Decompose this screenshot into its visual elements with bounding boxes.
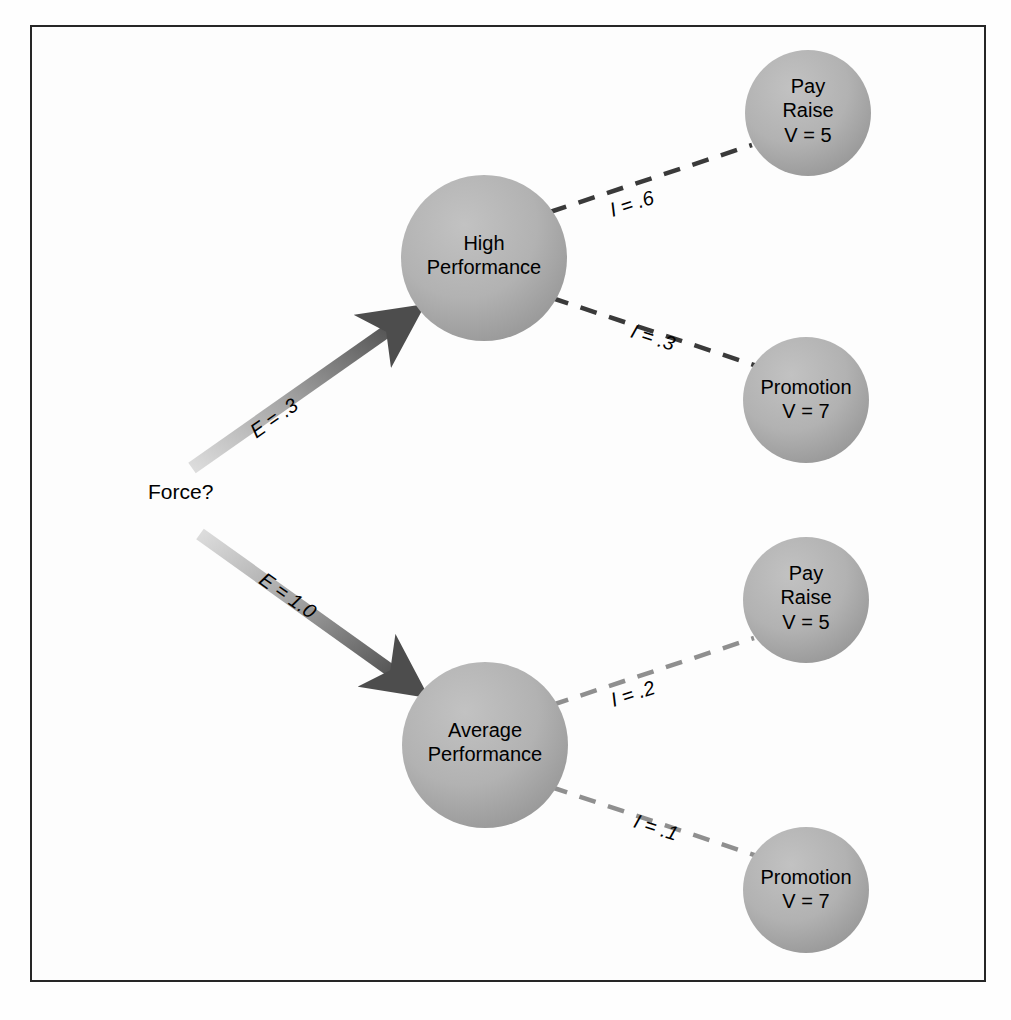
figure-container: High Performance Average Performance Pay… <box>0 0 1011 1020</box>
source-label-force: Force? <box>148 480 213 504</box>
